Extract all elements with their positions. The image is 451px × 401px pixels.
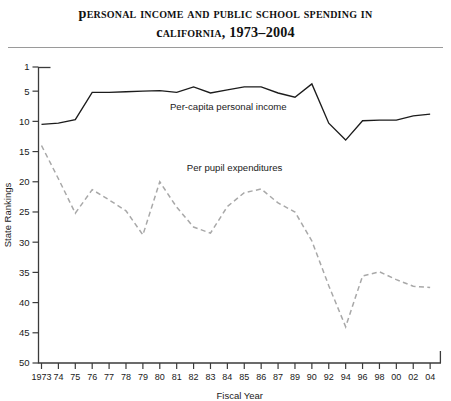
y-tick-label: 35: [19, 267, 30, 278]
y-tick-label: 30: [19, 237, 30, 248]
x-tick-label: 75: [70, 372, 80, 382]
x-tick-label: 00: [391, 372, 401, 382]
series-annotation-2: Per pupil expenditures: [187, 162, 283, 173]
x-tick-label: 82: [189, 372, 199, 382]
x-tick-label: 02: [408, 372, 418, 382]
x-tick-label: 78: [121, 372, 131, 382]
chart-plot-area: 15101520253035404550State Rankings197374…: [0, 0, 451, 401]
x-tick-label: 1973: [31, 372, 51, 382]
y-tick-label: 1: [24, 61, 29, 72]
y-tick-label: 10: [19, 116, 30, 127]
x-tick-label: 77: [104, 372, 114, 382]
x-tick-label: 81: [172, 372, 182, 382]
series-annotation-1: Per-capita personal income: [170, 101, 287, 112]
y-tick-label: 25: [19, 206, 30, 217]
y-tick-label: 50: [19, 357, 30, 368]
x-tick-label: 96: [358, 372, 368, 382]
x-tick-label: 89: [290, 372, 300, 382]
x-tick-label: 83: [205, 372, 215, 382]
x-tick-label: 90: [307, 372, 317, 382]
y-tick-label: 5: [24, 86, 29, 97]
x-tick-label: 94: [341, 372, 351, 382]
y-tick-label: 45: [19, 327, 30, 338]
x-tick-label: 74: [53, 372, 63, 382]
x-tick-label: 84: [222, 372, 232, 382]
series-layer: [42, 84, 431, 327]
y-tick-label: 40: [19, 297, 30, 308]
chart-figure: Personal Income and Public School Spendi…: [0, 0, 451, 401]
x-tick-label: 79: [138, 372, 148, 382]
y-tick-label: 15: [19, 146, 30, 157]
x-tick-label: 98: [374, 372, 384, 382]
x-tick-label: 80: [155, 372, 165, 382]
x-tick-label: 87: [273, 372, 283, 382]
x-tick-label: 85: [239, 372, 249, 382]
y-tick-label: 20: [19, 176, 30, 187]
annotation-layer: Per-capita personal incomePer pupil expe…: [170, 101, 287, 172]
y-axis-title: State Rankings: [2, 183, 13, 248]
x-tick-label: 76: [87, 372, 97, 382]
x-tick-label: 86: [256, 372, 266, 382]
x-tick-label: 04: [425, 372, 435, 382]
x-axis-title: Fiscal Year: [217, 390, 263, 401]
x-tick-label: 92: [324, 372, 334, 382]
